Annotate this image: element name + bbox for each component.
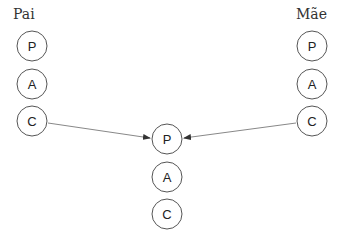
inheritance-diagram: P A C P A C P A C	[0, 0, 344, 241]
left-node-c: C	[17, 106, 47, 136]
svg-text:P: P	[308, 39, 317, 54]
edge-left-c-to-child-p	[48, 123, 150, 138]
svg-text:P: P	[28, 39, 37, 54]
svg-text:C: C	[162, 207, 171, 222]
left-node-p: P	[17, 31, 47, 61]
svg-text:C: C	[307, 114, 316, 129]
svg-text:C: C	[27, 114, 36, 129]
right-node-p: P	[297, 31, 327, 61]
svg-text:A: A	[28, 77, 37, 92]
svg-text:P: P	[163, 132, 172, 147]
right-node-c: C	[297, 106, 327, 136]
svg-text:A: A	[308, 77, 317, 92]
left-node-a: A	[17, 69, 47, 99]
child-node-c: C	[152, 199, 182, 229]
edge-right-c-to-child-p	[184, 123, 296, 138]
child-node-a: A	[152, 162, 182, 192]
child-node-p: P	[152, 124, 182, 154]
right-node-a: A	[297, 69, 327, 99]
svg-text:A: A	[163, 170, 172, 185]
